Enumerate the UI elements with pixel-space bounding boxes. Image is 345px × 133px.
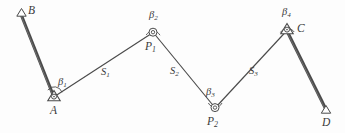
traverse-diagram: B A P1 P2 C D S1 S2 S3 β1 β2 β3 β4 [0, 0, 345, 133]
angle-label-beta1-sub: 1 [63, 81, 67, 89]
segment-B-A-highlight [21, 16, 53, 97]
point-label-B: B [28, 5, 35, 17]
side-label-S1-sub: 1 [106, 71, 110, 79]
marker-circle-P1-inner [151, 31, 154, 34]
angle-label-beta4: β4 [282, 7, 291, 19]
point-label-C: C [297, 23, 305, 35]
side-label-S2-sub: 2 [175, 70, 179, 78]
angle-label-beta3-sub: 3 [211, 91, 215, 99]
angle-label-beta4-sub: 4 [287, 11, 291, 19]
marker-circle-P2-inner [213, 106, 216, 109]
point-label-A: A [50, 105, 57, 117]
marker-dot-C [286, 29, 288, 31]
point-label-P2-base: P [207, 115, 214, 127]
side-label-S3-sub: 3 [254, 70, 258, 78]
side-label-S3: S3 [249, 66, 258, 78]
point-label-D: D [322, 117, 330, 129]
angle-label-beta1: β1 [58, 77, 67, 89]
angle-label-beta2-sub: 2 [154, 14, 158, 22]
side-label-S1: S1 [101, 67, 110, 79]
marker-triangle-D [321, 106, 330, 114]
point-label-P1: P1 [145, 41, 156, 54]
marker-dot-A [53, 96, 55, 98]
side-label-S2: S2 [170, 66, 179, 78]
angle-label-beta2: β2 [149, 10, 158, 22]
point-label-P1-sub: 1 [152, 45, 156, 54]
marker-triangle-B [17, 9, 26, 17]
segment-A-P1 [56, 34, 152, 96]
point-label-P2: P2 [207, 116, 218, 129]
angle-label-beta3: β3 [206, 87, 215, 99]
point-label-P2-sub: 2 [214, 120, 218, 129]
segment-C-D-highlight [287, 32, 325, 109]
point-label-P1-base: P [145, 40, 152, 52]
